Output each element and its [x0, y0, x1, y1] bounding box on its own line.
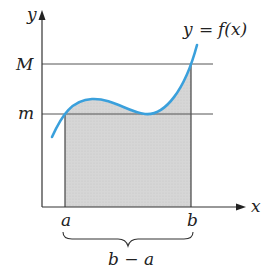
svg-text:y: y	[182, 19, 193, 39]
brace-label: b − a	[108, 249, 154, 269]
svg-text:=: =	[199, 19, 213, 39]
brace-icon	[63, 232, 193, 246]
x-axis-label: x	[251, 196, 261, 216]
tick-label-a: a	[61, 210, 71, 230]
y-axis	[39, 10, 46, 207]
curve-label: y = f(x)	[182, 19, 247, 39]
min-label: m	[18, 103, 34, 123]
y-axis-label: y	[26, 4, 37, 24]
max-label: M	[15, 54, 34, 74]
x-axis-arrow-icon	[236, 204, 246, 211]
svg-text:f(x): f(x)	[216, 19, 247, 39]
y-axis-arrow-icon	[39, 10, 46, 20]
tick-label-b: b	[187, 210, 198, 230]
integral-bounds-diagram: y x M m a b y = f(x) b − a	[0, 0, 275, 273]
area-under-curve	[52, 45, 197, 207]
